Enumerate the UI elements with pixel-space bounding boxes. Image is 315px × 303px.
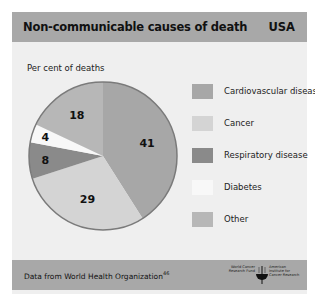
legend-item-respiratory: Respiratory disease: [192, 148, 307, 164]
legend-swatch: [192, 180, 213, 195]
legend-label: Diabetes: [224, 182, 262, 192]
legend-label: Cardiovascular disease: [224, 86, 315, 96]
chart-footer: Data from World Health Organization46 Wo…: [12, 260, 307, 290]
legend-swatch: [192, 212, 213, 227]
legend-item-cardiovascular: Cardiovascular disease: [192, 84, 307, 100]
legend-swatch: [192, 116, 213, 131]
legend-label: Respiratory disease: [224, 150, 308, 160]
source-note: Data from World Health Organization46: [24, 270, 169, 281]
slice-value-label: 29: [80, 193, 95, 206]
legend-item-other: Other: [192, 212, 307, 228]
logo-text-right: American Institute for Cancer Research: [269, 265, 301, 278]
slice-value-label: 18: [69, 109, 84, 122]
legend-swatch: [192, 84, 213, 99]
slice-value-label: 8: [42, 154, 50, 167]
slice-value-label: 4: [41, 131, 49, 144]
source-text: Data from World Health Organization: [24, 272, 163, 281]
legend-swatch: [192, 148, 213, 163]
wcrf-aicr-logo: World Cancer Research Fund American Inst…: [223, 264, 301, 286]
legend-item-diabetes: Diabetes: [192, 180, 307, 196]
legend-label: Cancer: [224, 118, 254, 128]
legend-label: Other: [224, 214, 248, 224]
slice-value-label: 41: [139, 137, 154, 150]
source-reference: 46: [163, 270, 169, 276]
legend-item-cancer: Cancer: [192, 116, 307, 132]
